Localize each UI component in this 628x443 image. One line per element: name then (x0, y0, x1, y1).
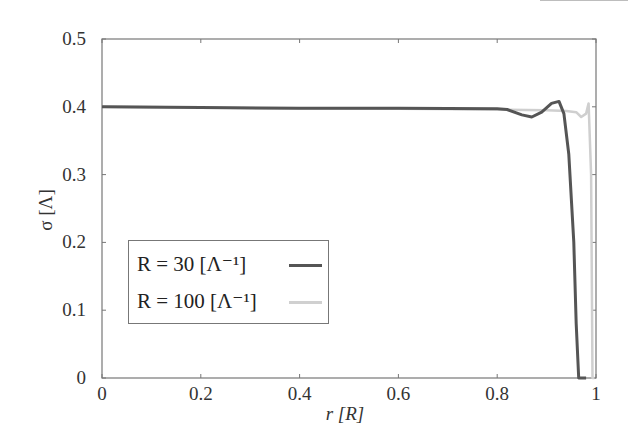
line-chart: 00.20.40.60.81 00.10.20.30.40.5 r [R] σ … (0, 0, 628, 443)
x-tick-labels: 00.20.40.60.81 (97, 383, 601, 404)
legend-item-r100: R = 100 [Λ⁻¹] (137, 284, 257, 318)
x-axis-label: r [R] (326, 403, 365, 424)
y-tick-label: 0.1 (62, 299, 86, 320)
x-tick-label: 0.8 (485, 383, 509, 404)
legend-swatch-dark (289, 264, 322, 267)
axis-ticks (102, 39, 596, 378)
legend-label: R = 30 [Λ⁻¹] (137, 252, 246, 277)
legend-item-r30: R = 30 [Λ⁻¹] (137, 247, 246, 281)
legend-swatch-light (289, 301, 322, 304)
x-tick-label: 1 (591, 383, 601, 404)
x-tick-label: 0.2 (189, 383, 213, 404)
x-tick-label: 0.6 (387, 383, 411, 404)
y-tick-labels: 00.10.20.30.40.5 (62, 28, 86, 388)
legend: R = 30 [Λ⁻¹] R = 100 [Λ⁻¹] (128, 240, 329, 324)
y-tick-label: 0.5 (62, 28, 86, 49)
y-tick-label: 0 (77, 367, 87, 388)
legend-label: R = 100 [Λ⁻¹] (137, 289, 257, 314)
plot-frame (102, 39, 596, 378)
y-tick-label: 0.4 (62, 96, 86, 117)
y-axis-label: σ [Λ] (35, 189, 56, 230)
x-tick-label: 0 (97, 383, 107, 404)
y-tick-label: 0.3 (62, 164, 86, 185)
y-tick-label: 0.2 (62, 231, 86, 252)
x-tick-label: 0.4 (288, 383, 312, 404)
